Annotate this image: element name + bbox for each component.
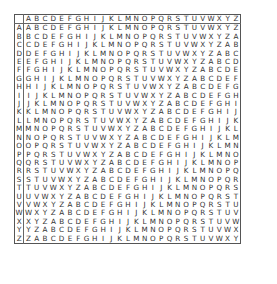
cell: S xyxy=(182,235,190,244)
cell: D xyxy=(57,235,65,244)
cell: N xyxy=(140,235,148,244)
cell: J xyxy=(107,235,115,244)
cell: Z xyxy=(24,235,33,244)
cell: Q xyxy=(165,235,173,244)
cell: H xyxy=(91,235,99,244)
table-row: ZZABCDEFGHIJKLMNOPQRSTUVWXY xyxy=(15,235,241,244)
cell: U xyxy=(199,235,207,244)
cell: T xyxy=(190,235,198,244)
cell: W xyxy=(215,235,223,244)
cell: L xyxy=(124,235,132,244)
cell: C xyxy=(49,235,57,244)
cell: X xyxy=(223,235,231,244)
cell: K xyxy=(116,235,124,244)
cell: I xyxy=(99,235,107,244)
cell: G xyxy=(82,235,90,244)
cell: Y xyxy=(232,235,241,244)
cell: E xyxy=(66,235,74,244)
cell: P xyxy=(157,235,165,244)
cell: R xyxy=(174,235,182,244)
row-header: Z xyxy=(15,235,24,244)
cell: V xyxy=(207,235,215,244)
cell: F xyxy=(74,235,82,244)
vigenere-square: ABCDEFGHIJKLMNOPQRSTUVWXYZAABCDEFGHIJKLM… xyxy=(14,14,241,244)
cell: A xyxy=(33,235,41,244)
cell: O xyxy=(149,235,157,244)
cell: B xyxy=(41,235,49,244)
cell: M xyxy=(132,235,140,244)
